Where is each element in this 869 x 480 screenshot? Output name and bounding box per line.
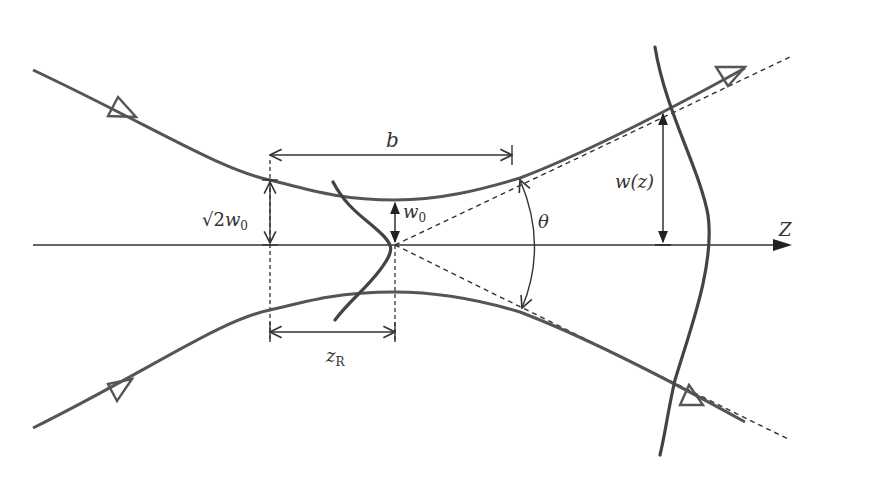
waist-gaussian-profile — [333, 182, 391, 320]
gaussian-beam-diagram: b √2w0 w0 θ w(z) zR Z — [0, 0, 869, 480]
z-axis-label: Z — [778, 219, 792, 240]
sqrt2-w0-dimension: √2w0 — [202, 180, 278, 245]
w0-var: w — [403, 201, 419, 222]
svg-text:w0: w0 — [403, 201, 426, 225]
confocal-parameter-b: b — [270, 128, 512, 165]
sqrt2-w-var: w — [225, 209, 241, 230]
asymptote-lines — [395, 57, 790, 440]
sqrt2-prefix: √2 — [202, 209, 225, 230]
w0-dimension: w0 — [395, 201, 426, 242]
divergence-angle: θ — [520, 180, 549, 308]
svg-text:√2w0: √2w0 — [202, 209, 248, 233]
wz-dimension: w(z) — [615, 114, 671, 245]
axis-arrow-icon — [773, 239, 792, 251]
theta-label: θ — [538, 211, 549, 232]
guide-lines — [270, 160, 395, 340]
optical-axis — [33, 239, 792, 251]
lower-beam-envelope — [33, 292, 745, 428]
zR-var: z — [325, 345, 336, 366]
lower-left-arrow-icon — [108, 379, 132, 401]
w0-sub: 0 — [418, 211, 426, 225]
rayleigh-range-zR: zR — [270, 322, 395, 369]
b-label: b — [386, 128, 399, 152]
svg-text:zR: zR — [325, 345, 345, 369]
zR-sub: R — [335, 355, 345, 369]
wz-label: w(z) — [615, 171, 654, 192]
sqrt2-w-sub: 0 — [240, 219, 248, 233]
